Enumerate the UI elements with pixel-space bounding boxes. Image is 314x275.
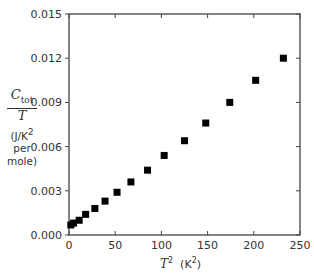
x-tick-label: 150	[197, 239, 218, 252]
data-point-square	[127, 178, 134, 185]
x-tick-label: 250	[290, 239, 311, 252]
y-label-numerator: Ctot	[7, 88, 37, 109]
y-tick-label: 0.015	[31, 8, 63, 21]
y-tick-label: 0.000	[31, 229, 63, 242]
data-point-square	[181, 137, 188, 144]
x-tick-label: 200	[243, 239, 264, 252]
data-point-square	[91, 205, 98, 212]
y-label-unit: (J/K2	[0, 126, 44, 143]
y-tick-label: 0.012	[31, 52, 63, 65]
y-axis-ticks: 0.0000.0030.0060.0090.0120.015	[31, 8, 301, 242]
data-point-square	[144, 167, 151, 174]
y-tick-label: 0.003	[31, 185, 63, 198]
y-label-denominator: T	[0, 109, 44, 123]
data-point-square	[76, 217, 83, 224]
data-point-square	[102, 198, 109, 205]
scatter-plot: 0.0000.0030.0060.0090.0120.015 050100150…	[0, 0, 314, 275]
x-tick-label: 100	[151, 239, 172, 252]
data-point-square	[226, 99, 233, 106]
x-tick-label: 50	[108, 239, 122, 252]
data-point-square	[252, 77, 259, 84]
data-point-square	[114, 189, 121, 196]
x-tick-label: 0	[66, 239, 73, 252]
y-axis-label: Ctot T (J/K2 per mole)	[0, 88, 44, 168]
data-point-square	[161, 152, 168, 159]
x-axis-label: T2 (K2)	[160, 256, 201, 271]
data-points	[67, 55, 287, 229]
data-point-square	[202, 120, 209, 127]
data-point-square	[82, 211, 89, 218]
x-axis-ticks: 050100150200250	[66, 14, 311, 252]
data-point-square	[280, 55, 287, 62]
